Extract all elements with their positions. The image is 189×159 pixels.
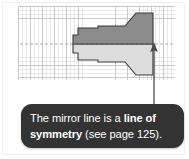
callout-bubble: The mirror line is a line of symmetry (s… xyxy=(21,104,184,148)
figure-container: The mirror line is a line of symmetry (s… xyxy=(0,0,189,159)
callout-bold-1: line of xyxy=(124,112,156,124)
shape-lower-half xyxy=(73,44,153,75)
callout-tail-text: (see page 125). xyxy=(82,128,162,140)
callout-lead-text: The mirror line is a xyxy=(30,112,124,124)
callout-line-2: symmetry (see page 125). xyxy=(30,126,176,142)
callout-bold-2: symmetry xyxy=(30,128,82,140)
shape-drawing xyxy=(18,6,175,80)
shape-upper-half xyxy=(73,13,153,44)
callout-line-1: The mirror line is a line of xyxy=(30,110,176,126)
grid-panel xyxy=(18,6,175,80)
